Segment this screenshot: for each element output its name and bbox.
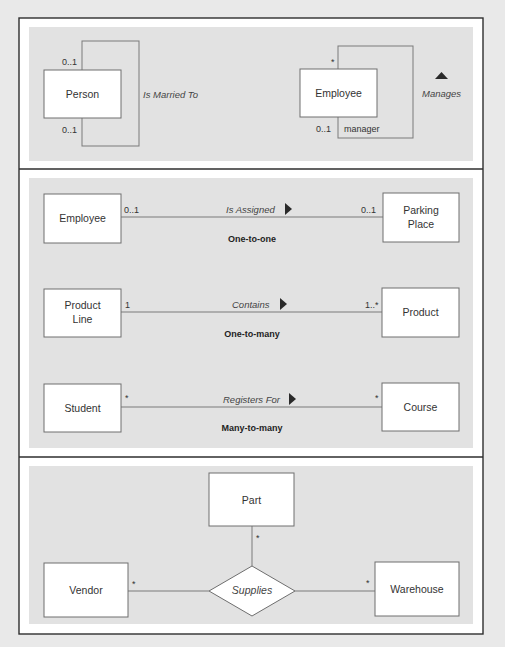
class-product-line-label-2: Line (73, 313, 93, 325)
vendor-mult: * (132, 579, 136, 589)
student-mult: * (125, 393, 129, 403)
person-mult-bottom: 0..1 (62, 125, 77, 135)
class-course-label: Course (404, 401, 438, 413)
employee-mult-top: * (331, 57, 335, 67)
class-employee-label: Employee (315, 87, 362, 99)
manager-role-label: manager (344, 124, 380, 134)
one-to-one-caption: One-to-one (228, 234, 276, 244)
person-mult-top: 0..1 (62, 57, 77, 67)
employee-mult-bottom: 0..1 (316, 124, 331, 134)
employee-assigned-mult: 0..1 (124, 205, 139, 215)
class-student-label: Student (64, 402, 100, 414)
parking-mult: 0..1 (361, 205, 376, 215)
many-to-many-caption: Many-to-many (221, 423, 282, 433)
uml-association-diagram: Person 0..1 0..1 Is Married To Employee … (0, 0, 505, 647)
warehouse-mult: * (366, 578, 370, 588)
class-person-label: Person (66, 88, 99, 100)
product-mult: 1..* (365, 300, 379, 310)
class-product-label: Product (402, 306, 438, 318)
class-employee-2-label: Employee (59, 212, 106, 224)
course-mult: * (375, 393, 379, 403)
class-product-line-label-1: Product (64, 299, 100, 311)
class-parking-place-label-2: Place (408, 218, 434, 230)
supplies-association-label: Supplies (232, 584, 273, 596)
assigned-association-label: Is Assigned (226, 204, 275, 215)
contains-association-label: Contains (232, 299, 270, 310)
product-line-mult: 1 (125, 300, 130, 310)
one-to-many-caption: One-to-many (224, 329, 280, 339)
class-parking-place-label-1: Parking (403, 204, 439, 216)
manages-association-label: Manages (422, 88, 461, 99)
class-warehouse-label: Warehouse (390, 583, 443, 595)
class-vendor-label: Vendor (69, 584, 103, 596)
part-mult: * (256, 533, 260, 543)
married-association-label: Is Married To (143, 89, 198, 100)
registers-association-label: Registers For (223, 394, 281, 405)
class-part-label: Part (242, 494, 261, 506)
